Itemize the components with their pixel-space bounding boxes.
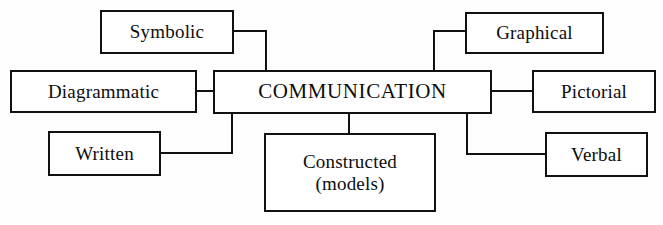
connector-edge-symbolic-h <box>234 30 267 32</box>
node-verbal[interactable]: Verbal <box>545 132 648 177</box>
connector-edge-verbal-h <box>466 153 547 155</box>
connector-edge-written-v <box>231 112 233 154</box>
connector-edge-pictorial <box>490 90 534 92</box>
connector-edge-constructed <box>348 112 350 135</box>
connector-edge-graphical-v <box>433 30 435 72</box>
node-written[interactable]: Written <box>48 131 161 176</box>
connector-edge-written-h <box>161 152 233 154</box>
communication-concept-diagram: COMMUNICATIONSymbolicDiagrammaticWritten… <box>0 0 663 225</box>
connector-edge-graphical-h <box>433 30 467 32</box>
node-communication-center[interactable]: COMMUNICATION <box>213 70 492 114</box>
connector-edge-verbal-v <box>466 112 468 155</box>
node-diagrammatic[interactable]: Diagrammatic <box>10 70 197 113</box>
node-symbolic[interactable]: Symbolic <box>100 10 234 54</box>
node-constructed-models[interactable]: Constructed (models) <box>264 133 436 212</box>
node-pictorial[interactable]: Pictorial <box>532 70 656 113</box>
connector-edge-symbolic-v <box>265 30 267 72</box>
node-graphical[interactable]: Graphical <box>465 12 604 54</box>
